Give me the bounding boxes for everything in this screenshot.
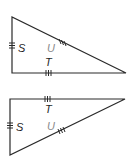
triangle-2: T S U: [7, 96, 125, 155]
triangle-2-label-u: U: [47, 120, 55, 132]
triangle-1-label-s: S: [18, 42, 26, 54]
diagram-canvas: S T U T S U: [0, 0, 130, 160]
triangle-2-label-t: T: [45, 103, 53, 115]
triangle-1-label-t: T: [45, 56, 53, 68]
triangle-2-side-u-tick-marks: [58, 127, 65, 134]
triangle-1-outline: [12, 17, 126, 73]
triangle-1-label-u: U: [47, 42, 55, 54]
triangle-1: S T U: [9, 17, 126, 76]
triangle-2-outline: [10, 99, 125, 155]
triangle-2-label-s: S: [16, 121, 24, 133]
